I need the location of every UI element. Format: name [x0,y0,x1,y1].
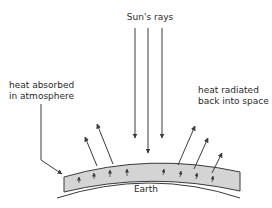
earth-label: Earth [134,184,158,194]
sun-rays-label: Sun's rays [127,12,174,22]
heat-radiated-label-line1: heat radiated [198,85,259,95]
heat-radiated-label-line2: back into space [198,96,269,106]
heat-absorbed-label-line1: heat absorbed [9,80,74,90]
greenhouse-diagram: Sun's rays heat absorbed in atmosphere h… [0,0,272,208]
absorbed-pointer-arrow [41,104,62,174]
sun-rays-arrows [135,28,162,153]
heat-absorbed-label-line2: in atmosphere [9,91,75,101]
diagram-canvas: Sun's rays heat absorbed in atmosphere h… [0,0,272,208]
